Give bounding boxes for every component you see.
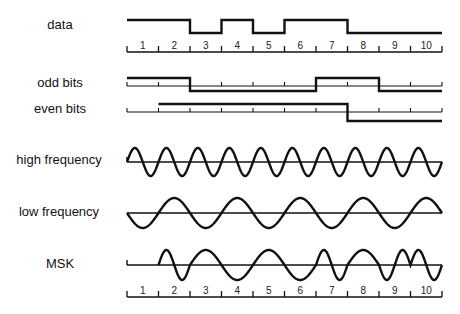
axis-tick-label: 7	[329, 40, 335, 51]
high-frequency-waveform	[127, 148, 442, 176]
msk-timing-diagram: 1234567891012345678910	[0, 0, 460, 314]
axis-tick-label: 2	[171, 40, 177, 51]
axis-tick-label: 2	[171, 285, 177, 296]
axis-tick-label: 3	[203, 40, 209, 51]
axis-tick-label: 4	[234, 285, 240, 296]
axis-tick-label: 1	[140, 285, 146, 296]
axis-tick-label: 10	[421, 285, 433, 296]
axis-tick-label: 6	[297, 40, 303, 51]
axis-tick-label: 3	[203, 285, 209, 296]
axis-tick-label: 10	[421, 40, 433, 51]
axis-tick-label: 8	[360, 285, 366, 296]
axis-tick-label: 8	[360, 40, 366, 51]
axis-tick-label: 4	[234, 40, 240, 51]
data-waveform	[127, 20, 442, 33]
axis-tick-label: 7	[329, 285, 335, 296]
axis-tick-label: 5	[266, 285, 272, 296]
axis-tick-label: 1	[140, 40, 146, 51]
axis-tick-label: 5	[266, 40, 272, 51]
axis-tick-label: 6	[297, 285, 303, 296]
axis-tick-label: 9	[392, 40, 398, 51]
axis-tick-label: 9	[392, 285, 398, 296]
